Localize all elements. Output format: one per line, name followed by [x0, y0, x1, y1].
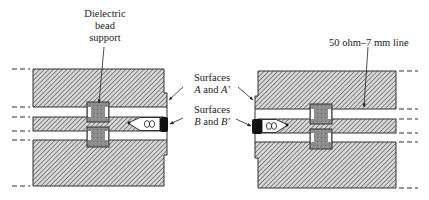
surface-a-leader-left [169, 87, 183, 100]
right-connector [252, 71, 396, 188]
surfaces-b-label: Surfaces B and B′ [186, 104, 238, 128]
surfaces-a-label: Surfaces A and A′ [186, 72, 238, 96]
coaxial-connector-diagram [0, 0, 429, 200]
surface-a-leader-right [238, 87, 253, 100]
surface-b-leader-left [170, 118, 183, 124]
line-label: 50 ohm–7 mm line [329, 37, 409, 49]
surface-b-leader-right [236, 119, 251, 126]
right-outer-conductor-top [255, 71, 396, 109]
dielectric-bead-label: Dielectric bead support [76, 8, 134, 44]
